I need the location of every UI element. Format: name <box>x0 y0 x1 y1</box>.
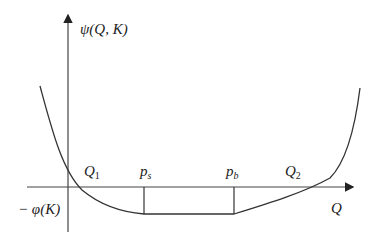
y-axis-label: ψ(Q, K) <box>80 21 128 38</box>
x-axis-label: Q <box>331 200 342 216</box>
q2-label: Q2 <box>285 163 301 181</box>
diagram-canvas: ψ(Q, K) Q − φ(K) Q1 ps pb Q2 <box>0 0 377 242</box>
y-intercept-label: − φ(K) <box>18 201 60 218</box>
psi-function-diagram: ψ(Q, K) Q − φ(K) Q1 ps pb Q2 <box>0 0 377 242</box>
ps-label: ps <box>139 163 152 181</box>
pb-label: pb <box>225 163 239 181</box>
psi-curve <box>40 86 360 214</box>
q1-label: Q1 <box>84 163 100 181</box>
